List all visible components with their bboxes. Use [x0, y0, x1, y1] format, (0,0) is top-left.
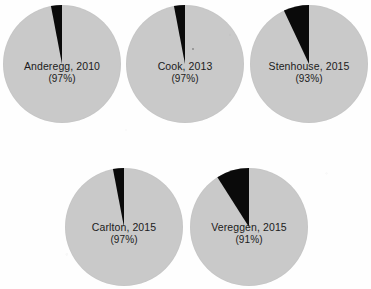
pie-label-title: Anderegg, 2010	[3, 60, 121, 73]
pie-label-percent: (93%)	[250, 73, 368, 85]
scan-artifact-speck	[192, 48, 194, 50]
pie-label-title: Cook, 2013	[126, 60, 244, 73]
pie-chart-stenhouse-2015: Stenhouse, 2015 (93%)	[250, 5, 368, 123]
pie-label-cook-2013: Cook, 2013 (97%)	[126, 60, 244, 85]
figure-pie-chart-grid: Anderegg, 2010 (97%) Cook, 2013 (97%) St…	[0, 0, 371, 289]
pie-label-title: Vereggen, 2015	[190, 221, 308, 234]
pie-label-anderegg-2010: Anderegg, 2010 (97%)	[3, 60, 121, 85]
pie-label-percent: (97%)	[3, 73, 121, 85]
pie-label-title: Stenhouse, 2015	[250, 60, 368, 73]
pie-label-percent: (91%)	[190, 234, 308, 246]
pie-chart-anderegg-2010: Anderegg, 2010 (97%)	[3, 5, 121, 123]
pie-label-stenhouse-2015: Stenhouse, 2015 (93%)	[250, 60, 368, 85]
pie-label-vereggen-2015: Vereggen, 2015 (91%)	[190, 221, 308, 246]
pie-label-carlton-2015: Carlton, 2015 (97%)	[65, 221, 183, 246]
pie-label-title: Carlton, 2015	[65, 221, 183, 234]
pie-label-percent: (97%)	[126, 73, 244, 85]
pie-chart-cook-2013: Cook, 2013 (97%)	[126, 5, 244, 123]
pie-label-percent: (97%)	[65, 234, 183, 246]
pie-chart-carlton-2015: Carlton, 2015 (97%)	[65, 168, 183, 286]
pie-chart-vereggen-2015: Vereggen, 2015 (91%)	[190, 168, 308, 286]
